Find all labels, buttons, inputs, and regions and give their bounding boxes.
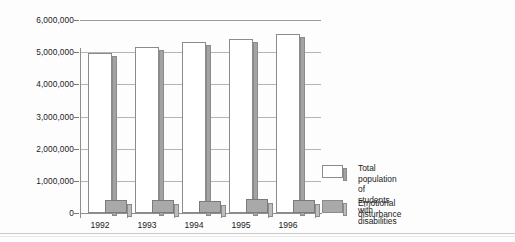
figure-bottom-rule xyxy=(0,233,515,234)
x-tick-label-1993: 1993 xyxy=(127,220,167,230)
gridline xyxy=(80,20,321,21)
y-tick-mark xyxy=(74,117,79,118)
y-tick-mark xyxy=(74,149,79,150)
y-tick-label: 4,000,000 xyxy=(2,79,74,89)
y-tick-label: 2,000,000 xyxy=(2,144,74,154)
x-tick-label-1996: 1996 xyxy=(268,220,308,230)
y-tick-mark xyxy=(74,213,79,214)
chart-figure: 01,000,0002,000,0003,000,0004,000,0005,0… xyxy=(0,0,515,242)
y-axis-line xyxy=(80,48,81,214)
y-tick-mark xyxy=(74,52,79,53)
y-tick-label: 0 xyxy=(2,208,74,218)
x-tick-label-1995: 1995 xyxy=(221,220,261,230)
y-tick-label: 5,000,000 xyxy=(2,47,74,57)
y-tick-label: 1,000,000 xyxy=(2,176,74,186)
y-tick-mark xyxy=(74,181,79,182)
x-tick-mark xyxy=(80,213,81,218)
y-tick-label: 3,000,000 xyxy=(2,112,74,122)
legend-label-emotional-disturbance: Emotional disturbance xyxy=(358,198,401,219)
x-tick-label-1992: 1992 xyxy=(80,220,120,230)
plot-area: 01,000,0002,000,0003,000,0004,000,0005,0… xyxy=(0,0,515,242)
y-tick-mark xyxy=(74,20,79,21)
y-tick-label: 6,000,000 xyxy=(2,15,74,25)
x-tick-label-1994: 1994 xyxy=(174,220,214,230)
y-tick-mark xyxy=(74,84,79,85)
figure-bottom-rule-secondary xyxy=(0,236,515,237)
